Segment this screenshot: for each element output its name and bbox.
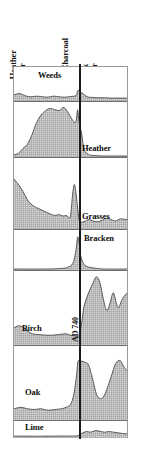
taxon-label-oak: Oak (25, 387, 40, 397)
chart-frame: Weeds Heather Grasses Bracken Birch Oak … (13, 66, 128, 438)
pollen-diagram-figure: Heather Mor Charcoal Oak Mor (0, 0, 142, 465)
ad-740-date-label: AD 740 (71, 317, 80, 342)
taxon-label-bracken: Bracken (84, 233, 114, 243)
taxon-label-lime: Lime (25, 422, 43, 432)
curve-oak (14, 345, 127, 420)
taxon-label-heather: Heather (82, 143, 111, 153)
curve-weeds (14, 67, 127, 101)
panel-oak (14, 345, 127, 420)
taxon-label-birch: Birch (22, 323, 42, 333)
taxon-label-weeds: Weeds (38, 70, 61, 80)
charcoal-axis-line (79, 67, 81, 439)
panel-grasses (14, 157, 127, 229)
taxon-label-grasses: Grasses (82, 211, 110, 221)
panel-weeds (14, 67, 127, 101)
curve-grasses (14, 157, 127, 229)
